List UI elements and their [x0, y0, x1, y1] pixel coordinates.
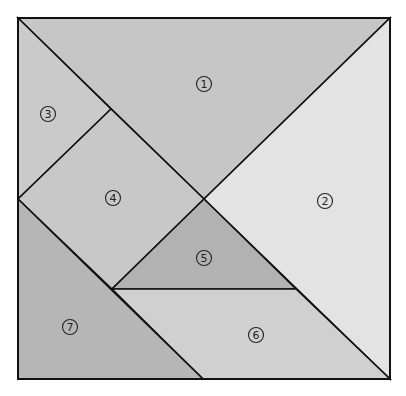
tangram-diagram: 1234567: [0, 0, 406, 396]
label-number: 2: [322, 195, 329, 208]
label-number: 4: [110, 192, 117, 205]
label-number: 7: [67, 321, 74, 334]
tangram-pieces: [18, 18, 390, 379]
label-number: 3: [45, 108, 52, 121]
label-number: 1: [201, 78, 208, 91]
label-number: 5: [201, 252, 208, 265]
label-number: 6: [253, 329, 260, 342]
